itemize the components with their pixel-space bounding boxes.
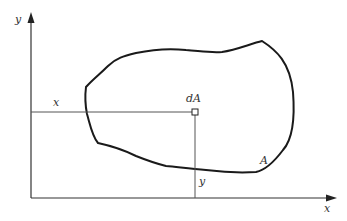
region-label: A xyxy=(260,155,268,166)
y-distance-label: y xyxy=(199,176,205,187)
x-distance-label: x xyxy=(53,97,59,108)
y-axis-arrow-icon xyxy=(28,12,35,23)
area-element-diagram xyxy=(0,0,347,221)
area-element-square xyxy=(192,109,198,115)
element-label: dA xyxy=(186,93,201,104)
region-boundary xyxy=(85,41,293,172)
x-axis-label: x xyxy=(324,203,330,214)
y-axis-label: y xyxy=(15,14,21,25)
x-axis-arrow-icon xyxy=(326,195,337,202)
